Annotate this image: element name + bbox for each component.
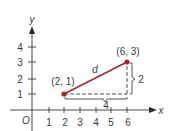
x-tick-label: 1 [46,117,52,128]
segment-label-d: d [92,64,98,75]
y-tick-label: 2 [17,74,23,85]
y-tick-label: 1 [17,89,23,100]
x-tick-label: 6 [125,117,131,128]
x-tick-label: 3 [77,117,83,128]
vertical-leg-label: 2 [138,74,144,85]
origin-label: O [22,115,30,126]
y-tick-label: 4 [17,42,23,53]
distance-diagram: 1 2 3 4 5 6 1 2 3 4 x y O (2, 1) (6, 3) … [0,0,171,131]
point-6-3 [124,59,129,64]
y-axis-label: y [29,14,36,25]
vertical-brace [130,63,135,94]
horizontal-brace [65,97,127,102]
x-tick-label: 5 [108,117,114,128]
y-tick-label: 3 [17,57,23,68]
point-2-1 [61,91,66,96]
point-label-6-3: (6, 3) [116,46,139,57]
x-tick-label: 4 [93,117,99,128]
point-label-2-1: (2, 1) [51,76,74,87]
x-axis-label: x [158,105,165,116]
horizontal-leg-label: 4 [103,100,109,111]
x-tick-label: 2 [62,117,68,128]
